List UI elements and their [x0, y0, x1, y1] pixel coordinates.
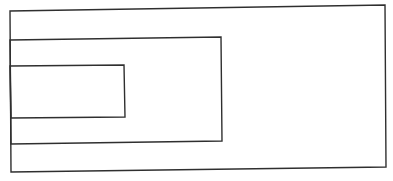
inner-rectangle: [10, 65, 125, 118]
nested-rectangles-diagram: [0, 0, 393, 181]
outer-rectangle: [10, 5, 386, 172]
middle-rectangle: [10, 37, 222, 144]
diagram-canvas: [0, 0, 393, 181]
